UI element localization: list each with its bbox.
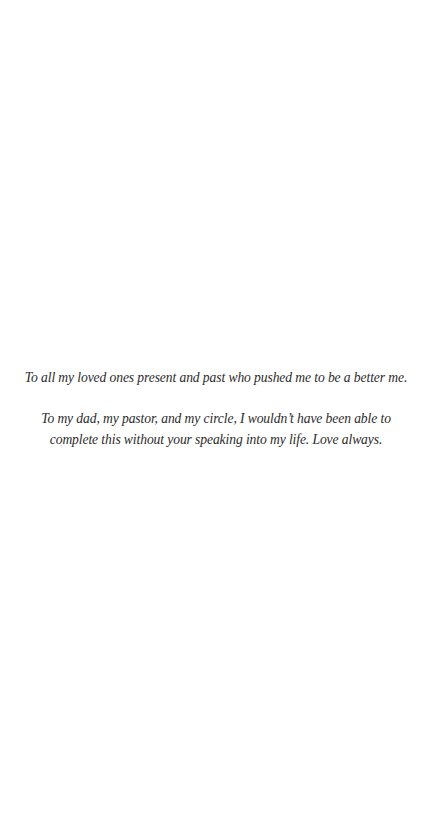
dedication-paragraph-1: To all my loved ones present and past wh… bbox=[0, 369, 432, 387]
dedication-paragraph-2-line-1: To my dad, my pastor, and my circle, I w… bbox=[40, 408, 392, 429]
dedication-paragraph-2: To my dad, my pastor, and my circle, I w… bbox=[0, 408, 432, 450]
book-page: To all my loved ones present and past wh… bbox=[0, 0, 432, 816]
dedication-paragraph-2-line-2: complete this without your speaking into… bbox=[40, 429, 392, 450]
